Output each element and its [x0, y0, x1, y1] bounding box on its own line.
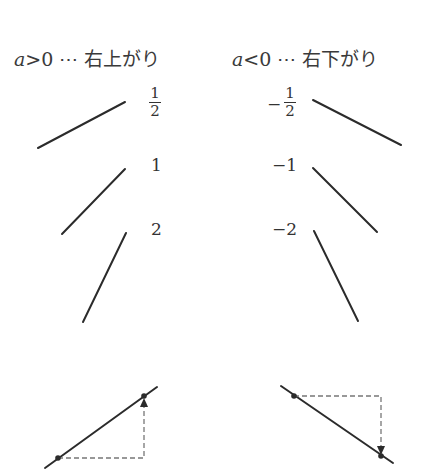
point [378, 453, 384, 459]
line-slope-half [38, 102, 125, 148]
line-slope-one [62, 169, 125, 234]
slope-lines [0, 0, 425, 470]
point [141, 393, 147, 399]
line-slope-neg-half [313, 100, 401, 145]
line-increasing-example [45, 387, 157, 468]
line-decreasing-example [281, 386, 393, 463]
point [55, 455, 61, 461]
line-slope-two [83, 233, 126, 322]
point [291, 393, 297, 399]
line-slope-neg-one [313, 168, 377, 232]
line-slope-neg-two [314, 231, 358, 321]
